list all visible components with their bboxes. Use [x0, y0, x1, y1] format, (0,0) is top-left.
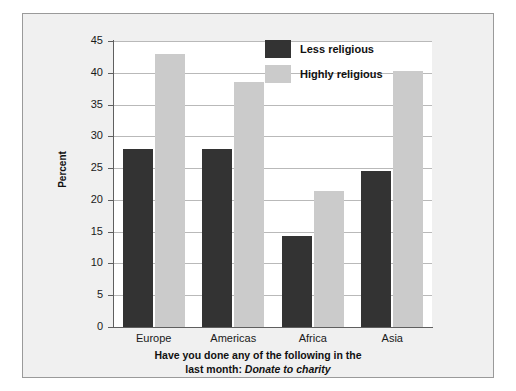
y-tick-label: 10 — [73, 257, 103, 268]
y-tick-mark — [108, 295, 114, 296]
y-tick-mark — [108, 41, 114, 42]
y-tick-label: 30 — [73, 130, 103, 141]
caption-line-2-prefix: last month: — [185, 363, 245, 375]
bar-europe-less-religious — [123, 149, 153, 327]
category-label-asia: Asia — [347, 332, 437, 344]
y-axis-label: Percent — [57, 130, 68, 210]
legend-item-less-religious: Less religious — [265, 36, 405, 61]
bar-asia-highly-religious — [393, 71, 423, 327]
y-tick-label: 0 — [73, 321, 103, 332]
legend-swatch-icon — [265, 65, 291, 83]
y-tick-mark — [108, 136, 114, 137]
y-tick-label: 5 — [73, 289, 103, 300]
y-tick-mark — [108, 327, 114, 328]
y-tick-mark — [108, 168, 114, 169]
legend-item-highly-religious: Highly religious — [265, 61, 405, 86]
y-tick-label: 45 — [73, 35, 103, 46]
x-axis-line — [113, 327, 433, 328]
bar-asia-less-religious — [361, 171, 391, 327]
category-label-americas: Americas — [188, 332, 278, 344]
legend-swatch-icon — [265, 40, 291, 58]
bar-americas-less-religious — [202, 149, 232, 327]
y-tick-mark — [108, 73, 114, 74]
category-label-europe: Europe — [109, 332, 199, 344]
category-label-africa: Africa — [268, 332, 358, 344]
y-tick-mark — [108, 105, 114, 106]
legend-label: Less religious — [300, 43, 374, 55]
bar-americas-highly-religious — [234, 82, 264, 327]
y-tick-mark — [108, 263, 114, 264]
y-tick-mark — [108, 232, 114, 233]
legend-label: Highly religious — [300, 68, 383, 80]
chart-legend: Less religious Highly religious — [265, 36, 405, 86]
caption-emphasis: Donate to charity — [245, 363, 331, 375]
y-tick-label: 20 — [73, 194, 103, 205]
y-tick-label: 25 — [73, 162, 103, 173]
chart-figure: 051015202530354045 Percent EuropeAmerica… — [22, 13, 494, 378]
y-axis-line — [113, 40, 114, 328]
bar-europe-highly-religious — [155, 54, 185, 327]
bar-africa-less-religious — [282, 236, 312, 327]
caption-line-1: Have you done any of the following in th… — [154, 349, 361, 361]
chart-caption: Have you done any of the following in th… — [83, 348, 433, 376]
y-tick-mark — [108, 200, 114, 201]
y-tick-label: 35 — [73, 99, 103, 110]
bar-africa-highly-religious — [314, 191, 344, 327]
y-tick-label: 40 — [73, 67, 103, 78]
y-tick-label: 15 — [73, 226, 103, 237]
